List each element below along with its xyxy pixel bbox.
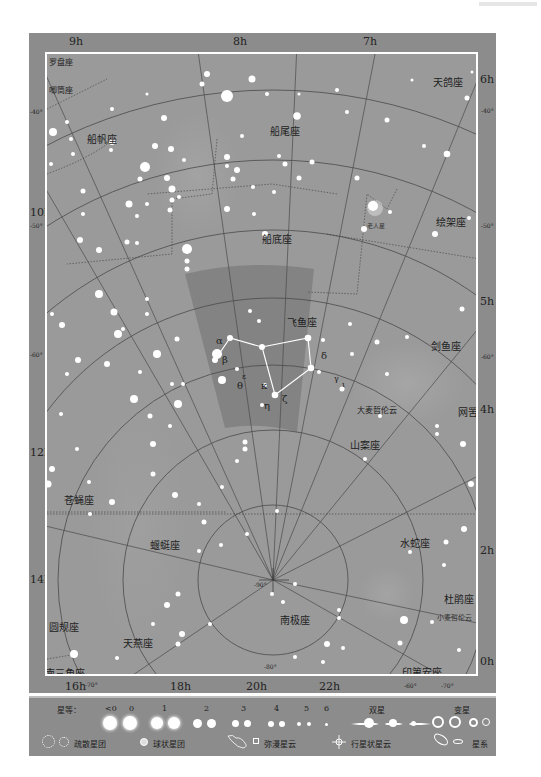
dec-label-right-60: -60° xyxy=(481,353,494,360)
legend-mag-2: 2 xyxy=(204,704,209,713)
dec-label-left-60: -60° xyxy=(30,351,43,358)
hour-label-6h: 6h xyxy=(480,73,494,86)
constellation-triangulum-australe: 南三角座 xyxy=(45,665,85,676)
constellation-dorado: 剑鱼座 xyxy=(431,338,461,353)
object-canopus: 老人星 xyxy=(367,221,385,230)
greek-eta: η xyxy=(264,400,270,411)
greek-beta: β xyxy=(222,354,228,365)
hour-label-5h: 5h xyxy=(480,295,494,308)
legend-mag-1: 1 xyxy=(162,704,167,713)
dec-label-left-40: -40° xyxy=(30,108,43,115)
legend-star-6-icon xyxy=(325,723,328,726)
legend-variable-star-d-icon xyxy=(482,718,490,726)
constellation-tucana: 杜鹃座 xyxy=(444,591,474,606)
hour-label-0h: 0h xyxy=(480,655,494,668)
legend-mag-lt0: <0 xyxy=(105,704,117,713)
legend-star-3b-icon xyxy=(244,720,251,727)
star-chart-map: 罗盘座 唧筒座 船帆座 船尾座 天鸽座 船底座 老人星 绘架座 飞鱼座 剑鱼座 … xyxy=(45,52,478,676)
hour-label-2h: 2h xyxy=(480,544,494,557)
legend-open-cluster: 疏散星团 xyxy=(74,738,106,749)
constellation-apus: 天燕座 xyxy=(123,635,153,650)
open-cluster-large-icon xyxy=(42,735,55,748)
greek-iota: ι xyxy=(342,380,345,389)
legend-double-star-a-icon xyxy=(364,718,374,728)
constellation-musca: 苍蝇座 xyxy=(64,492,94,507)
object-lmc: 大麦哲伦云 xyxy=(357,404,397,415)
galaxy-small-icon xyxy=(453,739,463,744)
constellation-antlia: 唧筒座 xyxy=(49,84,73,95)
legend-planetary-nebula: 行星状星云 xyxy=(351,738,391,749)
hour-label-8h: 8h xyxy=(233,35,247,48)
legend-star-1b-icon xyxy=(168,717,180,729)
legend-double-star-b-icon xyxy=(389,719,397,727)
legend-star-4a-icon xyxy=(268,721,274,727)
globular-cluster-icon xyxy=(140,738,148,746)
dec-label-south-pole: -90° xyxy=(254,581,267,588)
legend-star-2b-icon xyxy=(207,719,216,728)
legend-variable-star-b-icon xyxy=(449,716,461,728)
diffuse-nebula-square-icon xyxy=(253,738,259,744)
legend-double-star-c-icon xyxy=(411,721,416,726)
constellation-volans: 飞鱼座 xyxy=(287,314,317,329)
legend-galaxy: 星系 xyxy=(472,738,488,749)
constellation-hydrus: 水蛇座 xyxy=(400,535,430,550)
constellation-chamaeleon: 蝘蜓座 xyxy=(150,537,180,552)
constellation-reticulum: 网罟座 xyxy=(458,404,478,419)
diffuse-nebula-icon xyxy=(227,733,249,749)
dec-label-bottom-60: -60° xyxy=(404,682,417,689)
hour-label-9h: 9h xyxy=(69,35,83,48)
hour-label-18h: 18h xyxy=(170,680,191,693)
hour-label-16h: 16h xyxy=(65,680,86,693)
galaxy-large-icon xyxy=(432,731,450,748)
constellation-octans: 南极座 xyxy=(280,612,310,627)
legend-star-5b-icon xyxy=(307,722,311,726)
constellation-pyxis: 罗盘座 xyxy=(49,56,73,67)
hour-label-20h: 20h xyxy=(246,680,267,693)
constellation-columba: 天鸽座 xyxy=(433,74,463,89)
constellation-puppis: 船尾座 xyxy=(270,123,300,138)
greek-kappa: κ xyxy=(261,380,267,391)
legend-star-lt0-icon xyxy=(103,716,117,730)
volans-highlight-region xyxy=(185,265,314,432)
constellation-vela: 船帆座 xyxy=(87,131,117,146)
hour-label-4h: 4h xyxy=(480,403,494,416)
legend-variable-star-c-icon xyxy=(469,718,478,727)
dec-label-bottom-70: -70° xyxy=(85,681,98,688)
legend-variable-star: 变星 xyxy=(454,704,470,715)
legend-star-4b-icon xyxy=(279,721,285,727)
constellation-mensa: 山案座 xyxy=(350,437,380,452)
legend-variable-star-e-icon xyxy=(496,721,500,725)
planetary-nebula-icon xyxy=(332,735,346,749)
legend-panel: 星等： <0 0 1 2 3 4 5 6 双星 变星 疏散星团 球状星团 弥漫星… xyxy=(29,696,496,756)
legend-mag-5: 5 xyxy=(304,704,309,713)
legend-mag-0: 0 xyxy=(129,704,134,713)
constellation-indus: 印第安座 xyxy=(402,664,442,676)
dec-label-right-50: -50° xyxy=(481,222,494,229)
legend-star-0-icon xyxy=(123,716,137,730)
legend-star-1a-icon xyxy=(151,717,163,729)
legend-star-3a-icon xyxy=(232,720,239,727)
hour-label-22h: 22h xyxy=(319,680,340,693)
greek-alpha: α xyxy=(216,335,223,346)
legend-variable-star-a-icon xyxy=(432,716,444,728)
legend-mag-6: 6 xyxy=(324,704,329,713)
legend-star-5a-icon xyxy=(297,722,301,726)
page-header-bar xyxy=(479,2,537,6)
constellation-pictor: 绘架座 xyxy=(436,214,466,229)
greek-zeta: ζ xyxy=(282,393,287,404)
constellation-circinus: 圆规座 xyxy=(49,619,79,634)
dec-label-left-50: -50° xyxy=(30,222,43,229)
legend-star-2a-icon xyxy=(193,719,202,728)
open-cluster-small-icon xyxy=(59,737,69,747)
greek-gamma: γ xyxy=(334,374,339,383)
legend-globular-cluster: 球状星团 xyxy=(153,738,185,749)
legend-mag-4: 4 xyxy=(274,704,279,713)
legend-diffuse-nebula: 弥漫星云 xyxy=(264,738,296,749)
legend-mag-3: 3 xyxy=(241,704,246,713)
greek-delta: δ xyxy=(321,350,327,361)
greek-theta: θ xyxy=(237,380,243,391)
object-smc: 小麦哲伦云 xyxy=(437,612,472,622)
dec-label-bottom-70b: -70° xyxy=(441,682,454,689)
constellation-carina: 船底座 xyxy=(262,231,292,246)
hour-label-7h: 7h xyxy=(363,35,377,48)
